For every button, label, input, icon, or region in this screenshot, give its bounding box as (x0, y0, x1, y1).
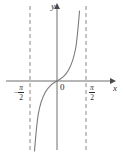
origin-label: 0 (60, 83, 65, 92)
fraction-denominator: 2 (18, 94, 24, 102)
fraction-negative-half-pi: π 2 (18, 84, 24, 101)
x-axis-label: x (113, 84, 117, 93)
fraction-positive-half-pi: π 2 (89, 84, 95, 101)
fraction-numerator: π (89, 84, 95, 92)
y-axis-label: y (51, 2, 55, 11)
fraction-numerator: π (18, 84, 24, 92)
xtick-label-positive-half-pi: π 2 (89, 84, 95, 101)
fraction-denominator: 2 (89, 94, 95, 102)
tangent-function-figure: y x 0 − π 2 π 2 (0, 0, 123, 156)
graph-canvas (0, 0, 123, 156)
xtick-label-negative-half-pi: − π 2 (14, 84, 24, 101)
